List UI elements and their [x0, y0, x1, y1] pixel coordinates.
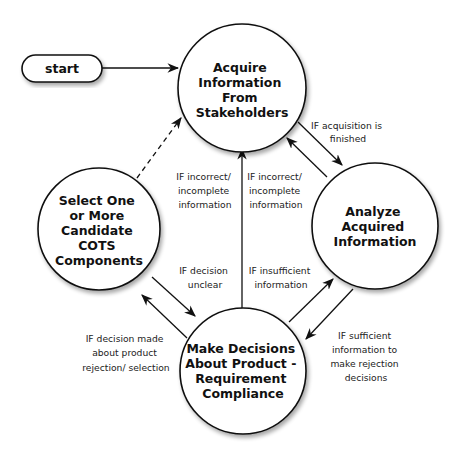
node-analyze-label: Analyze Acquired Information [334, 204, 417, 249]
flow-diagram: start Acquire Information From Stakehold… [0, 0, 465, 455]
label-insufficient-info: IF insufficient information [249, 265, 313, 290]
start-label: start [45, 61, 79, 76]
node-decide: Make Decisions About Product - Requireme… [180, 308, 306, 434]
node-select: Select One or More Candidate COTS Compon… [38, 168, 160, 290]
label-sufficient-info: IF sufficient information to make reject… [330, 330, 401, 383]
label-analyze-incorrect: IF incorrect/ incomplete information [247, 171, 304, 210]
node-decide-label: Make Decisions About Product - Requireme… [185, 341, 300, 401]
edge-decide-to-select [142, 295, 187, 338]
node-analyze: Analyze Acquired Information [312, 163, 438, 289]
node-acquire: Acquire Information From Stakeholders [178, 24, 306, 152]
edge-select-to-acquire [137, 118, 181, 178]
label-decision-made: IF decision made about product rejection… [82, 333, 170, 373]
label-acquisition-finished: IF acquisition is finished [311, 120, 385, 144]
label-decide-incorrect: IF incorrect/ incomplete information [176, 171, 233, 210]
node-select-label: Select One or More Candidate COTS Compon… [55, 193, 143, 268]
label-decision-unclear: IF decision unclear [179, 265, 231, 290]
start-node: start [22, 55, 102, 82]
